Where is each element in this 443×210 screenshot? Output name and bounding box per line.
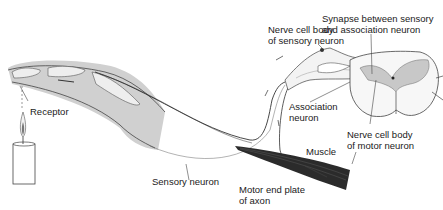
label-association-neuron-line2: neuron — [289, 112, 319, 123]
label-sensory-neuron: Sensory neuron — [152, 176, 219, 187]
spinal-cord-illustration — [350, 51, 443, 116]
label-motor-end-plate-line1: Motor end plate — [239, 184, 305, 195]
label-muscle: Muscle — [306, 146, 336, 157]
label-motor-end-plate-line2: of axon — [239, 195, 270, 206]
label-association-neuron-line1: Association — [289, 101, 338, 112]
label-synapse-line2: and association neuron — [322, 24, 420, 35]
label-receptor: Receptor — [30, 106, 69, 117]
motor-neuron-path — [279, 88, 290, 164]
label-synapse-line1: Synapse between sensory — [322, 13, 433, 24]
candle-illustration — [13, 86, 35, 184]
label-nerve-cell-body-sensory-line2: of sensory neuron — [268, 35, 344, 46]
label-motor-nerve-cell-body-line1: Nerve cell body — [347, 129, 412, 140]
label-motor-nerve-cell-body-line2: of motor neuron — [347, 140, 414, 151]
